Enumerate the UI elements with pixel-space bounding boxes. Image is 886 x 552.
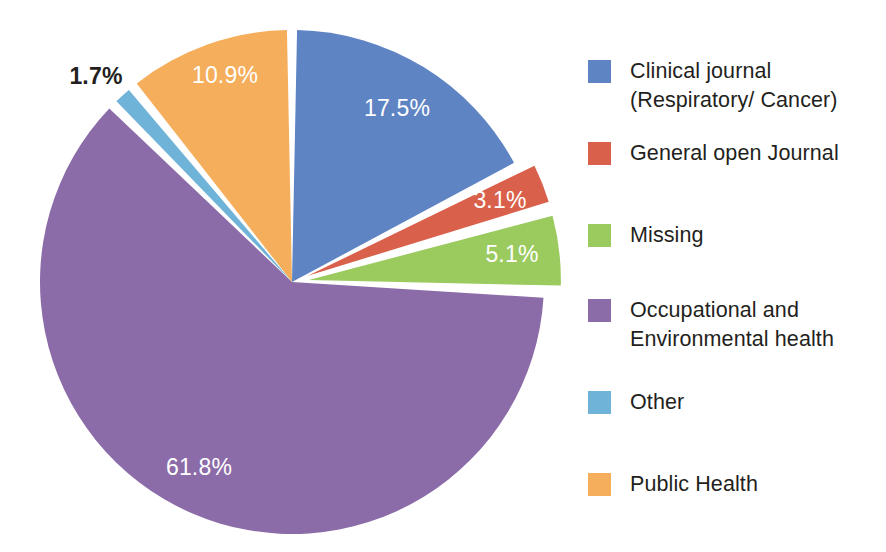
legend-item-label: Clinical journal (Respiratory/ Cancer)	[630, 57, 838, 115]
legend-item[interactable]: General open Journal	[588, 139, 839, 168]
legend-swatch-icon	[588, 60, 611, 83]
legend-item[interactable]: Clinical journal (Respiratory/ Cancer)	[588, 57, 838, 115]
legend-item-label: Occupational and Environmental health	[630, 296, 834, 354]
legend-swatch-icon	[588, 299, 611, 322]
legend-item[interactable]: Occupational and Environmental health	[588, 296, 834, 354]
legend-item-label: Missing	[630, 221, 704, 250]
legend-item[interactable]: Other	[588, 388, 684, 417]
legend-item[interactable]: Missing	[588, 221, 704, 250]
legend-swatch-icon	[588, 473, 611, 496]
pie-svg	[0, 0, 600, 552]
chart-legend: Clinical journal (Respiratory/ Cancer)Ge…	[588, 0, 886, 552]
legend-swatch-icon	[588, 224, 611, 247]
legend-item-label: Other	[630, 388, 684, 417]
legend-swatch-icon	[588, 391, 611, 414]
pie-slice-group	[40, 30, 561, 534]
legend-item[interactable]: Public Health	[588, 470, 758, 499]
pie-chart-figure: 17.5% 3.1% 5.1% 61.8% 1.7% 10.9% Clinica…	[0, 0, 886, 552]
legend-swatch-icon	[588, 142, 611, 165]
pie-plot-area: 17.5% 3.1% 5.1% 61.8% 1.7% 10.9%	[0, 0, 600, 552]
legend-item-label: Public Health	[630, 470, 758, 499]
legend-item-label: General open Journal	[630, 139, 839, 168]
